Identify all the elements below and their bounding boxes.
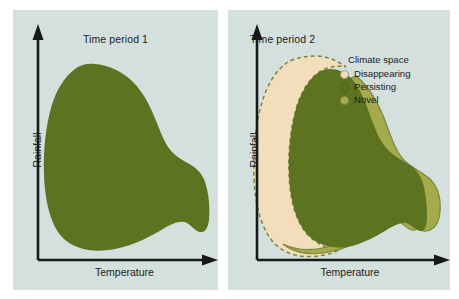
panel-2-plot: [228, 10, 450, 290]
legend-swatch-novel-icon: [340, 96, 349, 105]
legend-item-persisting: Persisting: [340, 81, 444, 93]
climate-shape-persisting-p1: [44, 64, 210, 251]
panel-2-x-axis-label: Temperature: [228, 266, 450, 278]
panel-time-period-1: Time period 1 Rainfall Temperature: [13, 10, 218, 290]
climate-space-figure: Time period 1 Rainfall Temperature Time …: [0, 0, 459, 299]
panel-2-title: Time period 2: [228, 33, 450, 45]
panel-1-y-axis-label: Rainfall: [31, 132, 43, 167]
legend-label-novel: Novel: [354, 94, 379, 106]
legend-label-persisting: Persisting: [354, 81, 396, 93]
panel-1-plot: [13, 10, 218, 290]
legend-title: Climate space: [348, 54, 444, 65]
panel-2-y-axis-label: Rainfall: [248, 132, 260, 167]
legend-item-disappearing: Disappearing: [340, 68, 444, 80]
x-axis-arrowhead-p1: [202, 255, 218, 266]
panel-1-title: Time period 1: [13, 33, 218, 45]
panel-1-x-axis-label: Temperature: [13, 266, 218, 278]
legend-label-disappearing: Disappearing: [354, 68, 411, 80]
legend-swatch-persisting-icon: [340, 83, 349, 92]
x-axis-arrowhead-p2: [434, 255, 450, 266]
legend-swatch-disappearing-icon: [340, 70, 349, 79]
legend: Climate space Disappearing Persisting No…: [340, 54, 444, 107]
legend-item-novel: Novel: [340, 94, 444, 106]
panel-time-period-2: Time period 2 Rainfall Temperature Clima…: [228, 10, 450, 290]
